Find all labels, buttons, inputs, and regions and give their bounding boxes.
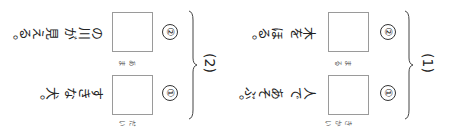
furigana: あま (116, 58, 136, 65)
sentence-text: 木を ほる。 (244, 26, 316, 39)
furigana: だい (116, 118, 136, 125)
answer-box-2-2[interactable] (112, 12, 153, 52)
sentence-text: すきな 犬。 (32, 86, 104, 99)
item-number-badge: ② (380, 24, 396, 40)
answer-box-2-1[interactable] (112, 75, 153, 115)
furigana: きかい (322, 118, 352, 125)
item-number-badge: ① (162, 85, 178, 101)
brace-icon (404, 10, 414, 120)
brace-icon (188, 10, 198, 120)
item-number-badge: ① (380, 85, 396, 101)
furigana: まる (332, 58, 352, 65)
group-1-label: (1) (418, 56, 438, 70)
group-2-label: (2) (200, 56, 220, 70)
item-number-badge: ② (162, 24, 178, 40)
answer-box-1-1[interactable] (328, 75, 369, 115)
answer-box-1-2[interactable] (328, 12, 369, 52)
sentence-text: の川が 見える。 (5, 26, 104, 39)
sentence-text: 人で あそぶ。 (230, 86, 316, 99)
